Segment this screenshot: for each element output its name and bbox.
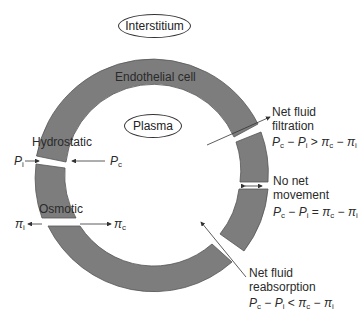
wall-segment-right-lower [220, 189, 268, 251]
filtration-line2: filtration [272, 119, 316, 133]
no-net-line1: No net [273, 174, 329, 188]
interstitium-text: Interstitium [125, 19, 184, 33]
plasma-text: Plasma [133, 119, 173, 133]
filtration-line1: Net fluid [272, 105, 316, 119]
reabsorption-equation: Pc − Pi < πc − πi [249, 296, 334, 312]
filtration-equation: Pc − Pi > πc − πi [272, 135, 357, 153]
reabsorption-line2: reabsorption [249, 280, 316, 294]
filtration-label: Net fluid filtration [272, 105, 316, 133]
reabsorption-line1: Net fluid [249, 266, 316, 280]
osmotic-pii: πi [15, 217, 25, 235]
no-net-equation: Pc − Pi = πc − πi [273, 205, 358, 223]
hydrostatic-pi: Pi [14, 154, 24, 172]
hydrostatic-pc: Pc [110, 154, 122, 172]
wall-segment-bottom [48, 226, 232, 292]
reabsorption-label: Net fluid reabsorption [249, 266, 316, 294]
endothelial-wall [35, 59, 268, 292]
osmotic-label: Osmotic [39, 202, 83, 216]
interstitium-label: Interstitium [118, 14, 191, 38]
plasma-label: Plasma [124, 114, 182, 138]
endothelial-cell-label: Endothelial cell [115, 70, 196, 84]
hydrostatic-label: Hydrostatic [32, 135, 92, 149]
no-net-label: No net movement [273, 174, 329, 202]
wall-segment-right-upper [236, 132, 268, 182]
no-net-line2: movement [273, 188, 329, 202]
osmotic-pic: πc [114, 217, 126, 235]
